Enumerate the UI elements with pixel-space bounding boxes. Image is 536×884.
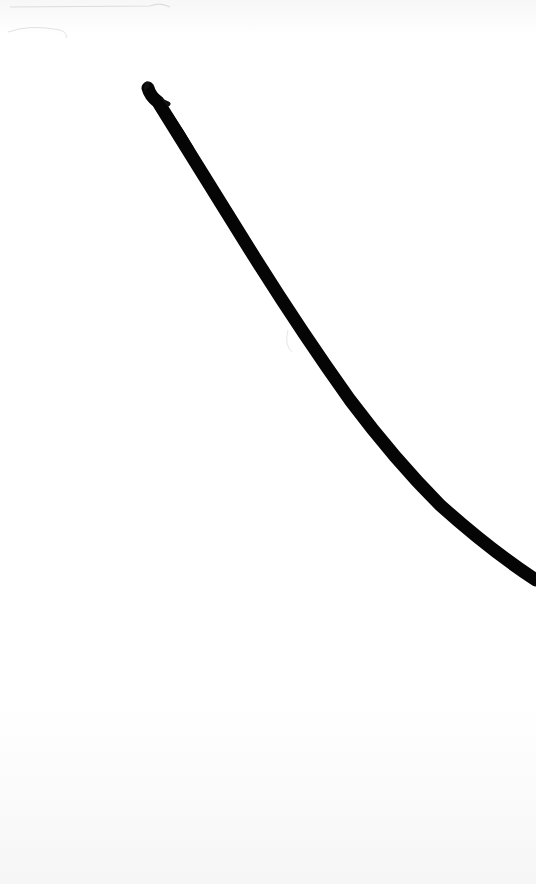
scanned-paper (0, 0, 536, 884)
faint-hair-mark (287, 330, 292, 352)
faint-curl-mark (8, 27, 66, 38)
black-fiber-stroke (148, 88, 536, 580)
fiber-drawing (0, 0, 536, 884)
top-edge-line (10, 4, 170, 7)
fiber-taper (150, 92, 190, 150)
